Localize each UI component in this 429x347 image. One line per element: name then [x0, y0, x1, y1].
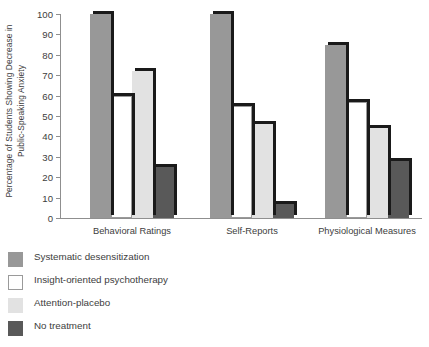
bar-no-treatment: [153, 167, 174, 218]
bar-body: [210, 14, 231, 218]
y-axis-title-line-1: Percentage of Students Showing Decrease …: [4, 24, 14, 197]
y-tick-mark: [56, 177, 61, 178]
y-tick-mark: [56, 157, 61, 158]
bar-body: [111, 96, 132, 218]
y-tick-label: 70: [42, 70, 53, 81]
legend-item-no-treatment: No treatment: [8, 319, 268, 342]
bar-insight-oriented-psychotherapy: [231, 106, 252, 218]
bar-attention-placebo: [252, 124, 273, 218]
bar-body: [252, 124, 273, 218]
bar-body: [367, 128, 388, 218]
bar-group-behavioral-ratings: [90, 14, 174, 218]
y-tick-mark: [56, 55, 61, 56]
bar-attention-placebo: [132, 71, 153, 218]
chart-figure: Percentage of Students Showing Decrease …: [0, 0, 429, 347]
y-tick-mark: [56, 136, 61, 137]
y-tick-label: 100: [37, 9, 53, 20]
y-tick-mark: [56, 116, 61, 117]
bar-insight-oriented-psychotherapy: [346, 102, 367, 218]
plot-area: 0102030405060708090100 Behavioral Rating…: [60, 14, 422, 218]
y-tick-mark: [56, 14, 61, 15]
y-tick-label: 10: [42, 192, 53, 203]
legend-item-insight-oriented-psychotherapy: Insight-oriented psychotherapy: [8, 273, 268, 296]
bar-attention-placebo: [367, 128, 388, 218]
bar-group-physiological-measures: [325, 14, 409, 218]
y-tick-label: 80: [42, 49, 53, 60]
bar-no-treatment: [273, 204, 294, 218]
bar-body: [90, 14, 111, 218]
bar-body: [325, 45, 346, 218]
chart-legend: Systematic desensitizationInsight-orient…: [8, 250, 268, 342]
bar-systematic-desensitization: [90, 14, 111, 218]
bar-insight-oriented-psychotherapy: [111, 96, 132, 218]
legend-label: Insight-oriented psychotherapy: [34, 274, 168, 285]
y-axis-title-line-2: Public-Speaking Anxiety: [15, 65, 25, 157]
legend-swatch-attention-placebo: [8, 298, 23, 313]
y-tick-mark: [56, 34, 61, 35]
y-tick-label: 50: [42, 111, 53, 122]
x-axis-line: [60, 218, 422, 219]
bar-body: [231, 106, 252, 218]
bar-body: [346, 102, 367, 218]
legend-item-attention-placebo: Attention-placebo: [8, 296, 268, 319]
x-category-label-behavioral-ratings: Behavioral Ratings: [93, 226, 171, 236]
x-category-label-self-reports: Self-Reports: [226, 226, 278, 236]
y-tick-mark: [56, 198, 61, 199]
bar-body: [132, 71, 153, 218]
y-tick-mark: [56, 96, 61, 97]
bar-body: [153, 167, 174, 218]
bar-group-self-reports: [210, 14, 294, 218]
bar-body: [273, 204, 294, 218]
bar-systematic-desensitization: [210, 14, 231, 218]
legend-item-systematic-desensitization: Systematic desensitization: [8, 250, 268, 273]
legend-swatch-systematic-desensitization: [8, 252, 23, 267]
y-tick-label: 40: [42, 131, 53, 142]
y-tick-mark: [56, 75, 61, 76]
bar-no-treatment: [388, 161, 409, 218]
legend-label: Attention-placebo: [34, 297, 110, 308]
legend-label: Systematic desensitization: [34, 251, 149, 262]
x-category-label-physiological-measures: Physiological Measures: [318, 226, 416, 236]
bar-body: [388, 161, 409, 218]
legend-swatch-insight-oriented-psychotherapy: [8, 275, 23, 290]
legend-label: No treatment: [34, 320, 91, 331]
y-tick-label: 60: [42, 90, 53, 101]
legend-swatch-no-treatment: [8, 321, 23, 336]
y-tick-label: 20: [42, 172, 53, 183]
y-tick-label: 30: [42, 151, 53, 162]
bar-systematic-desensitization: [325, 45, 346, 218]
y-tick-mark: [56, 218, 61, 219]
y-tick-label: 0: [48, 213, 53, 224]
y-tick-label: 90: [42, 29, 53, 40]
y-axis-title: Percentage of Students Showing Decrease …: [0, 0, 30, 222]
